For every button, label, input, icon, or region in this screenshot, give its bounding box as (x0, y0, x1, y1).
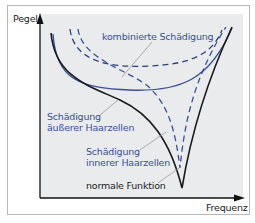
label-outer-line2: äußerer Haarzellen (47, 122, 134, 133)
label-inner-line2: innerer Haarzellen (86, 157, 170, 168)
label-normal-function: normale Funktion (86, 180, 166, 191)
label-outer-line1: Schädigung (47, 111, 101, 122)
label-combined-damage: kombinierte Schädigung (102, 31, 213, 42)
label-inner-line1: Schädigung (86, 146, 140, 157)
x-axis-label: Frequenz (206, 202, 248, 213)
y-axis-label: Pegel (13, 13, 38, 24)
